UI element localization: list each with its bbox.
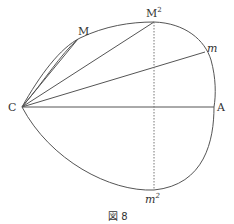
label-c: C bbox=[8, 101, 16, 114]
label-m-small: m bbox=[207, 42, 217, 55]
label-m2-small: m2 bbox=[145, 192, 160, 206]
chord-c-m-small bbox=[22, 52, 205, 107]
figure-caption: 図 8 bbox=[108, 211, 128, 222]
label-m2-small-sup: 2 bbox=[154, 192, 160, 200]
label-m2-small-base: m bbox=[145, 193, 155, 206]
label-m2-sup: 2 bbox=[157, 6, 161, 14]
label-m: M bbox=[78, 25, 89, 38]
figure-8-diagram: C A M M2 m m2 図 8 bbox=[0, 0, 234, 224]
label-a: A bbox=[216, 101, 226, 114]
chord-c-m bbox=[22, 39, 78, 107]
closed-curve bbox=[22, 22, 215, 190]
label-m2-base: M bbox=[146, 7, 157, 20]
label-m2: M2 bbox=[146, 6, 162, 20]
